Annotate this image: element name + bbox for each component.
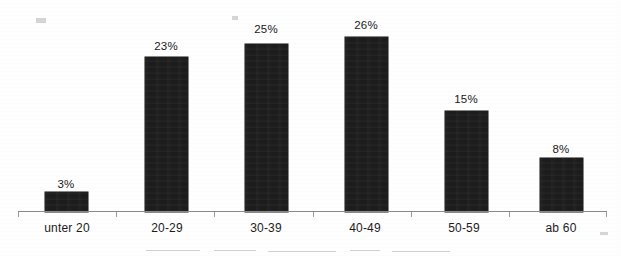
bar-chart: 3% 23% 25% 26% 15% 8% unter 20 20-29 30-… xyxy=(0,0,621,256)
axis-tick xyxy=(18,212,19,217)
bar-unter-20 xyxy=(45,192,88,212)
x-axis-category-label: 30-39 xyxy=(218,221,314,235)
bar-value-label: 8% xyxy=(531,143,591,156)
bar-value-label: 23% xyxy=(136,40,196,53)
plot-area: 3% 23% 25% 26% 15% 8% unter 20 20-29 30-… xyxy=(0,0,621,256)
scan-artifact xyxy=(392,251,450,252)
bar-20-29 xyxy=(145,57,188,212)
axis-tick xyxy=(116,212,117,217)
axis-tick xyxy=(214,212,215,217)
bar-value-label: 15% xyxy=(436,93,496,106)
bar-value-label: 26% xyxy=(336,19,396,32)
x-axis-category-label: 50-59 xyxy=(416,221,512,235)
bar-value-label: 3% xyxy=(36,178,96,191)
axis-tick xyxy=(509,212,510,217)
scan-artifact xyxy=(232,16,238,20)
bar-ab-60 xyxy=(540,158,583,212)
scan-artifact xyxy=(214,250,256,251)
axis-tick xyxy=(606,212,607,217)
scan-artifact xyxy=(350,250,380,251)
bar-40-49 xyxy=(345,37,388,212)
bar-value-label: 25% xyxy=(236,23,296,36)
x-axis-category-label: 40-49 xyxy=(317,221,413,235)
scan-artifact xyxy=(146,250,200,251)
bar-30-39 xyxy=(245,44,288,212)
x-axis-category-label: ab 60 xyxy=(513,221,609,235)
scan-artifact xyxy=(36,18,46,23)
scan-artifact xyxy=(268,251,336,252)
scan-artifact xyxy=(600,232,608,235)
axis-tick xyxy=(313,212,314,217)
bar-50-59 xyxy=(445,111,488,212)
x-axis-category-label: 20-29 xyxy=(119,221,215,235)
axis-tick xyxy=(411,212,412,217)
x-axis-category-label: unter 20 xyxy=(19,221,115,235)
